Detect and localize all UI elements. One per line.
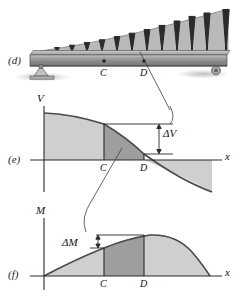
moment-delta-label: ΔM — [62, 236, 78, 248]
panel-label-f: (f) — [8, 268, 18, 280]
beam-loading-svg — [0, 0, 241, 96]
panel-moment-diagram: (f) M x C D ΔM — [0, 200, 241, 306]
shear-delta-arrow — [157, 124, 161, 153]
beam-point-C-marker — [102, 59, 105, 62]
shear-y-axis-label: V — [37, 92, 44, 104]
shear-x-axis-label: x — [225, 150, 230, 162]
beam-body — [30, 55, 227, 66]
leader-line-e-callout — [170, 106, 173, 124]
figure-root: (d) C D — [0, 0, 241, 306]
support-shadow-right — [177, 70, 229, 79]
moment-point-label-D: D — [140, 278, 147, 289]
moment-x-axis-label: x — [225, 266, 230, 278]
leader-line-f-callout — [84, 200, 92, 232]
moment-y-axis-label: M — [36, 204, 45, 216]
shear-diagram-svg — [0, 96, 241, 200]
moment-delta-arrow — [96, 235, 100, 248]
shear-point-label-D: D — [140, 162, 147, 173]
panel-beam-loading: (d) C D — [0, 0, 241, 96]
roller-support-right — [212, 66, 221, 75]
panel-label-e: (e) — [8, 153, 20, 165]
shear-area-left-light — [44, 113, 104, 160]
pin-support-left — [30, 64, 54, 79]
distributed-load-area — [40, 9, 228, 51]
shear-area-CD-dark — [104, 124, 144, 160]
moment-point-label-C: C — [100, 278, 107, 289]
beam-point-label-C: C — [100, 67, 107, 78]
shear-delta-label: ΔV — [163, 127, 176, 139]
beam-top-surface — [30, 51, 230, 56]
panel-label-d: (d) — [8, 54, 21, 66]
shear-point-label-C: C — [100, 162, 107, 173]
beam-point-label-D: D — [140, 67, 147, 78]
panel-shear-diagram: (e) V x C D ΔV — [0, 96, 241, 200]
